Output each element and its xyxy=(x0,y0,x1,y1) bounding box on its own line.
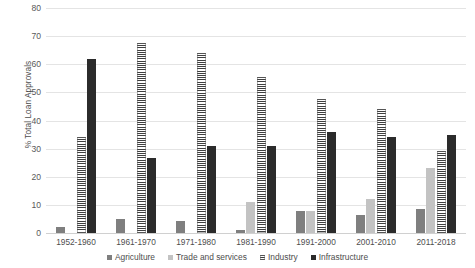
bar-infrastructure[interactable] xyxy=(387,137,396,233)
bar-groups: 1952-19601961-19701971-19801981-19901991… xyxy=(46,8,466,233)
y-tick-label: 40 xyxy=(31,116,41,126)
legend-label: Trade and services xyxy=(176,252,247,262)
legend-swatch-agriculture xyxy=(107,255,112,260)
bar-group-bars xyxy=(286,8,346,233)
bar-agriculture[interactable] xyxy=(116,219,125,233)
bar-trade[interactable] xyxy=(426,168,435,233)
bar-infrastructure[interactable] xyxy=(447,135,456,233)
chart-legend: AgricultureTrade and servicesIndustryInf… xyxy=(0,252,475,262)
bar-group: 1961-1970 xyxy=(106,8,166,233)
bar-infrastructure[interactable] xyxy=(147,158,156,233)
bar-trade[interactable] xyxy=(306,211,315,234)
bar-chart: % Total Loan Approvals 01020304050607080… xyxy=(0,0,475,268)
bar-trade[interactable] xyxy=(366,199,375,233)
bar-group: 2011-2018 xyxy=(406,8,466,233)
x-tick-label: 1952-1960 xyxy=(46,237,106,247)
bar-agriculture[interactable] xyxy=(56,227,65,233)
bar-group: 1981-1990 xyxy=(226,8,286,233)
legend-swatch-trade xyxy=(168,255,173,260)
y-tick-label: 10 xyxy=(31,200,41,210)
legend-label: Agriculture xyxy=(115,252,155,262)
bar-agriculture[interactable] xyxy=(236,230,245,233)
legend-swatch-infrastructure xyxy=(311,255,316,260)
bar-group: 1971-1980 xyxy=(166,8,226,233)
bar-group-bars xyxy=(106,8,166,233)
bar-infrastructure[interactable] xyxy=(327,132,336,233)
bar-infrastructure[interactable] xyxy=(267,146,276,233)
legend-label: Infrastructure xyxy=(319,252,368,262)
bar-group-bars xyxy=(226,8,286,233)
x-axis-line: 0 xyxy=(46,233,466,234)
bar-agriculture[interactable] xyxy=(416,209,425,233)
bar-group: 2001-2010 xyxy=(346,8,406,233)
bar-agriculture[interactable] xyxy=(296,211,305,234)
bar-infrastructure[interactable] xyxy=(87,59,96,233)
legend-item-industry[interactable]: Industry xyxy=(260,252,298,262)
y-tick-label: 50 xyxy=(31,87,41,97)
bar-group-bars xyxy=(346,8,406,233)
y-tick-label: 20 xyxy=(31,172,41,182)
x-tick-label: 2011-2018 xyxy=(406,237,466,247)
bar-agriculture[interactable] xyxy=(356,215,365,233)
bar-industry[interactable] xyxy=(137,43,146,233)
y-tick-label: 70 xyxy=(31,31,41,41)
bar-group: 1991-2000 xyxy=(286,8,346,233)
bar-agriculture[interactable] xyxy=(176,221,185,233)
bar-industry[interactable] xyxy=(197,53,206,233)
y-tick-label: 0 xyxy=(36,228,41,238)
bar-industry[interactable] xyxy=(377,109,386,233)
legend-item-agriculture[interactable]: Agriculture xyxy=(107,252,155,262)
bar-trade[interactable] xyxy=(246,202,255,233)
legend-swatch-industry xyxy=(260,255,265,260)
x-tick-label: 1991-2000 xyxy=(286,237,346,247)
legend-item-trade[interactable]: Trade and services xyxy=(168,252,247,262)
bar-infrastructure[interactable] xyxy=(207,146,216,233)
y-tick-label: 30 xyxy=(31,144,41,154)
plot-area: 01020304050607080 1952-19601961-19701971… xyxy=(46,8,466,233)
y-tick-label: 60 xyxy=(31,59,41,69)
x-tick-label: 1971-1980 xyxy=(166,237,226,247)
x-tick-label: 1981-1990 xyxy=(226,237,286,247)
x-tick-label: 2001-2010 xyxy=(346,237,406,247)
legend-item-infrastructure[interactable]: Infrastructure xyxy=(311,252,368,262)
bar-industry[interactable] xyxy=(317,99,326,233)
bar-group-bars xyxy=(46,8,106,233)
y-tick-label: 80 xyxy=(31,3,41,13)
bar-industry[interactable] xyxy=(257,77,266,233)
bar-industry[interactable] xyxy=(77,137,86,233)
bar-group: 1952-1960 xyxy=(46,8,106,233)
bar-group-bars xyxy=(166,8,226,233)
bar-group-bars xyxy=(406,8,466,233)
x-tick-label: 1961-1970 xyxy=(106,237,166,247)
legend-label: Industry xyxy=(268,252,298,262)
bar-industry[interactable] xyxy=(437,151,446,233)
